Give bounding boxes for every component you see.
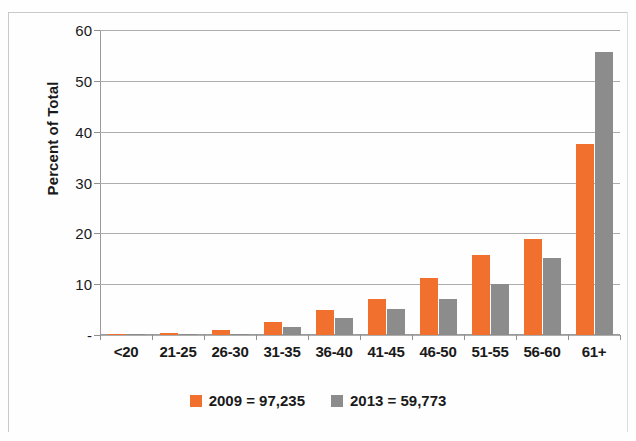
x-axis-tick	[100, 335, 101, 340]
bar-group	[568, 30, 620, 335]
bar-group	[152, 30, 204, 335]
x-axis-tick-label: <20	[114, 343, 139, 360]
bar	[127, 334, 145, 335]
x-axis-tick	[568, 335, 569, 340]
bar	[524, 239, 542, 335]
bar-group	[204, 30, 256, 335]
y-axis-tick-label: 40	[54, 124, 92, 139]
x-axis-tick-label: 21-25	[160, 343, 197, 360]
x-axis-tick	[412, 335, 413, 340]
x-axis-tick-label: 51-55	[472, 343, 509, 360]
x-axis-tick	[152, 335, 153, 340]
bar	[576, 144, 594, 335]
bar	[368, 299, 386, 335]
x-axis-tick-label: 26-30	[212, 343, 249, 360]
bar	[179, 334, 197, 335]
x-axis-tick	[620, 335, 621, 340]
x-axis-tick-label: 41-45	[368, 343, 405, 360]
y-axis-tick-label: 10	[54, 277, 92, 292]
plot-area: -102030405060	[100, 30, 620, 335]
legend-item: 2009 = 97,235	[190, 392, 305, 409]
legend-item: 2013 = 59,773	[331, 392, 446, 409]
bar	[231, 334, 249, 335]
x-axis-tick	[360, 335, 361, 340]
x-axis-tick-label: 36-40	[316, 343, 353, 360]
y-axis-tick-label: 20	[54, 226, 92, 241]
y-axis-tick-label: 60	[54, 23, 92, 38]
bar-group	[516, 30, 568, 335]
bar-group	[360, 30, 412, 335]
x-axis-tick	[464, 335, 465, 340]
bar-chart-figure: Percent of Total -102030405060 <2021-252…	[0, 0, 636, 441]
bar	[160, 333, 178, 335]
bar	[491, 284, 509, 335]
bar	[283, 327, 301, 335]
bar	[335, 318, 353, 335]
legend-label: 2013 = 59,773	[350, 392, 446, 409]
x-axis-tick	[516, 335, 517, 340]
chart-legend: 2009 = 97,2352013 = 59,773	[0, 392, 636, 409]
y-axis-tick-label: 50	[54, 73, 92, 88]
y-axis-tick-label: -	[54, 328, 92, 343]
page-border-right	[627, 12, 628, 432]
bar-group	[256, 30, 308, 335]
bar	[420, 278, 438, 335]
x-axis-tick-label: 46-50	[420, 343, 457, 360]
bar	[387, 309, 405, 335]
bar-group	[308, 30, 360, 335]
y-axis-tick-label: 30	[54, 175, 92, 190]
x-axis-tick-label: 61+	[582, 343, 607, 360]
x-axis-tick-label: 31-35	[264, 343, 301, 360]
bar-group	[100, 30, 152, 335]
legend-label: 2009 = 97,235	[209, 392, 305, 409]
bar	[439, 299, 457, 335]
x-axis-tick	[256, 335, 257, 340]
bar	[264, 322, 282, 335]
x-axis-tick	[308, 335, 309, 340]
legend-swatch-icon	[190, 395, 202, 407]
bar	[543, 258, 561, 335]
bar	[108, 334, 126, 335]
bar	[595, 52, 613, 335]
bar	[212, 330, 230, 335]
bar	[316, 310, 334, 335]
x-axis-tick	[204, 335, 205, 340]
legend-swatch-icon	[331, 395, 343, 407]
x-axis-tick-label: 56-60	[524, 343, 561, 360]
bar-group	[464, 30, 516, 335]
bar	[472, 255, 490, 335]
bar-group	[412, 30, 464, 335]
